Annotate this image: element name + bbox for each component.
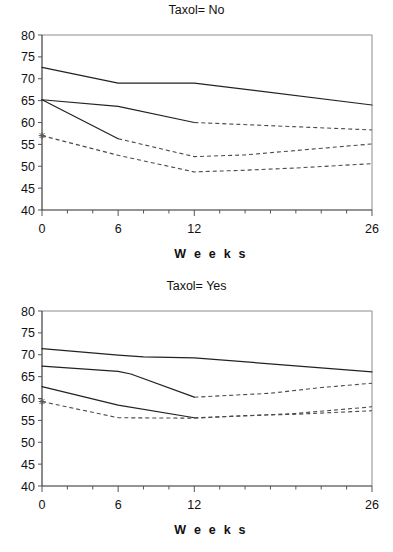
x-tick-label: 26 — [365, 498, 379, 512]
chart-page: Taxol= No 404550556065707580061226W e e … — [0, 0, 393, 552]
series-line-series-4-dashed-bottom — [42, 136, 372, 172]
x-tick-label: 0 — [39, 222, 46, 236]
series-line-series-3-dashed-lower — [118, 139, 372, 157]
y-tick-label: 65 — [21, 370, 35, 384]
y-tick-label: 65 — [21, 94, 35, 108]
series-line-series-2-dashed-mid — [194, 383, 372, 397]
x-tick-label: 12 — [187, 498, 201, 512]
y-tick-label: 80 — [21, 29, 35, 43]
y-tick-label: 70 — [21, 72, 35, 86]
y-tick-label: 40 — [21, 204, 35, 218]
x-axis-title: W e e k s — [174, 523, 247, 537]
y-tick-label: 55 — [21, 414, 35, 428]
x-tick-label: 0 — [39, 498, 46, 512]
x-tick-label: 12 — [187, 222, 201, 236]
series-line-series-3-dashed-lower — [194, 407, 372, 418]
series-line-series-3-solid-lower — [42, 387, 194, 418]
x-tick-label: 6 — [115, 222, 122, 236]
plot-area-taxol-no: 404550556065707580061226W e e k s — [0, 0, 393, 276]
y-tick-label: 50 — [21, 436, 35, 450]
y-tick-label: 60 — [21, 392, 35, 406]
panel-taxol-no: Taxol= No 404550556065707580061226W e e … — [0, 0, 393, 276]
series-line-series-1-solid-upper — [42, 67, 372, 105]
y-tick-label: 70 — [21, 348, 35, 362]
y-tick-label: 60 — [21, 116, 35, 130]
y-tick-label: 80 — [21, 305, 35, 319]
y-tick-label: 45 — [21, 458, 35, 472]
y-tick-label: 45 — [21, 182, 35, 196]
y-tick-label: 55 — [21, 138, 35, 152]
series-line-series-2-dashed-mid — [194, 123, 372, 130]
y-tick-label: 40 — [21, 480, 35, 494]
y-tick-label: 75 — [21, 326, 35, 340]
y-tick-label: 50 — [21, 160, 35, 174]
y-tick-label: 75 — [21, 50, 35, 64]
x-tick-label: 6 — [115, 498, 122, 512]
series-line-series-1-solid-upper — [42, 349, 372, 372]
x-tick-label: 26 — [365, 222, 379, 236]
panel-taxol-yes: Taxol= Yes 404550556065707580061226W e e… — [0, 276, 393, 552]
x-axis-title: W e e k s — [174, 247, 247, 261]
plot-area-taxol-yes: 404550556065707580061226W e e k s — [0, 276, 393, 552]
star-marker — [39, 398, 46, 405]
series-line-series-4-dashed-bottom — [42, 402, 372, 419]
plot-frame — [42, 35, 372, 210]
star-marker — [39, 132, 46, 139]
